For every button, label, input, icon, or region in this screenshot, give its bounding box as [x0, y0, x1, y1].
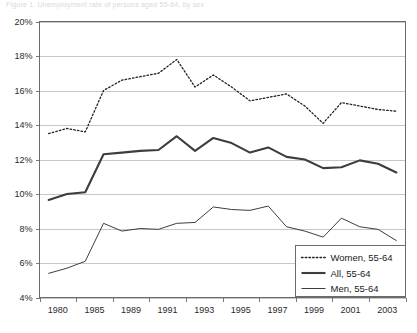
x-axis-tick-label: 2001 — [341, 305, 361, 315]
chart-legend[interactable]: Women, 55-64All, 55-64Men, 55-64 — [296, 246, 406, 297]
x-axis-tick-label: 1991 — [158, 305, 178, 315]
x-axis-tick-label: 1995 — [231, 305, 251, 315]
series-line-women-55-64 — [49, 59, 397, 133]
x-axis-tick-label: 2003 — [377, 305, 397, 315]
x-axis-tick-label: 1999 — [304, 305, 324, 315]
y-axis-tick-label: 10% — [14, 189, 32, 199]
y-axis-tick-label: 20% — [14, 17, 32, 27]
figure-root: Figure 1. Unemployment rate of persons a… — [0, 0, 417, 333]
y-axis-tick-label: 4% — [19, 293, 32, 303]
x-axis-tick-label: 1989 — [121, 305, 141, 315]
y-axis-tick-label: 8% — [19, 224, 32, 234]
legend-entry-label[interactable]: All, 55-64 — [331, 268, 371, 279]
legend-entry-label[interactable]: Men, 55-64 — [331, 283, 379, 294]
y-axis-tick-label: 16% — [14, 86, 32, 96]
x-axis-tick-label: 1993 — [194, 305, 214, 315]
line-chart: 20%18%16%14%12%10%8%6%4% 198019851989199… — [0, 0, 417, 333]
legend-entry-label[interactable]: Women, 55-64 — [331, 252, 393, 263]
y-axis-tick-label: 14% — [14, 120, 32, 130]
x-axis-tick-label: 1980 — [48, 305, 68, 315]
series-line-all-55-64 — [49, 136, 397, 200]
y-axis-tick-label: 12% — [14, 155, 32, 165]
x-axis-tick-label: 1985 — [84, 305, 104, 315]
x-axis-tick-label: 1997 — [267, 305, 287, 315]
x-axis-labels-group: 1980198519891991199319951997199920012003 — [48, 305, 397, 315]
y-axis-tick-label: 6% — [19, 258, 32, 268]
y-axis-tick-label: 18% — [14, 51, 32, 61]
y-axis-labels-group: 20%18%16%14%12%10%8%6%4% — [14, 17, 32, 303]
